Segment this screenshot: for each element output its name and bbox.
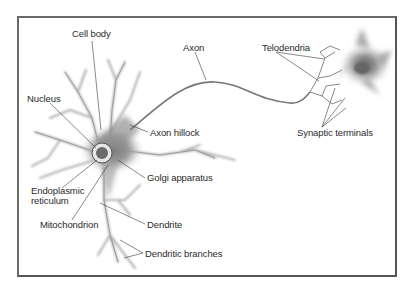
- telodendria: [310, 46, 342, 104]
- label-axon: Axon: [183, 43, 204, 53]
- label-endoplasmic-reticulum-2: reticulum: [31, 196, 69, 206]
- nucleolus-shape: [96, 147, 108, 159]
- label-dendritic-branches: Dendritic branches: [145, 249, 222, 259]
- label-cell-body: Cell body: [72, 29, 111, 39]
- axon: [130, 82, 310, 130]
- target-cell: [332, 28, 392, 95]
- label-dendrite: Dendrite: [147, 220, 182, 230]
- label-telodendria: Telodendria: [262, 43, 310, 53]
- label-golgi-apparatus: Golgi apparatus: [147, 173, 213, 183]
- neuron-diagram: Cell body Axon Telodendria Nucleus Axon …: [0, 0, 420, 293]
- label-mitochondrion: Mitochondrion: [40, 220, 98, 230]
- label-synaptic-terminals: Synaptic terminals: [297, 128, 373, 138]
- label-nucleus: Nucleus: [27, 94, 61, 104]
- label-axon-hillock: Axon hillock: [150, 128, 200, 138]
